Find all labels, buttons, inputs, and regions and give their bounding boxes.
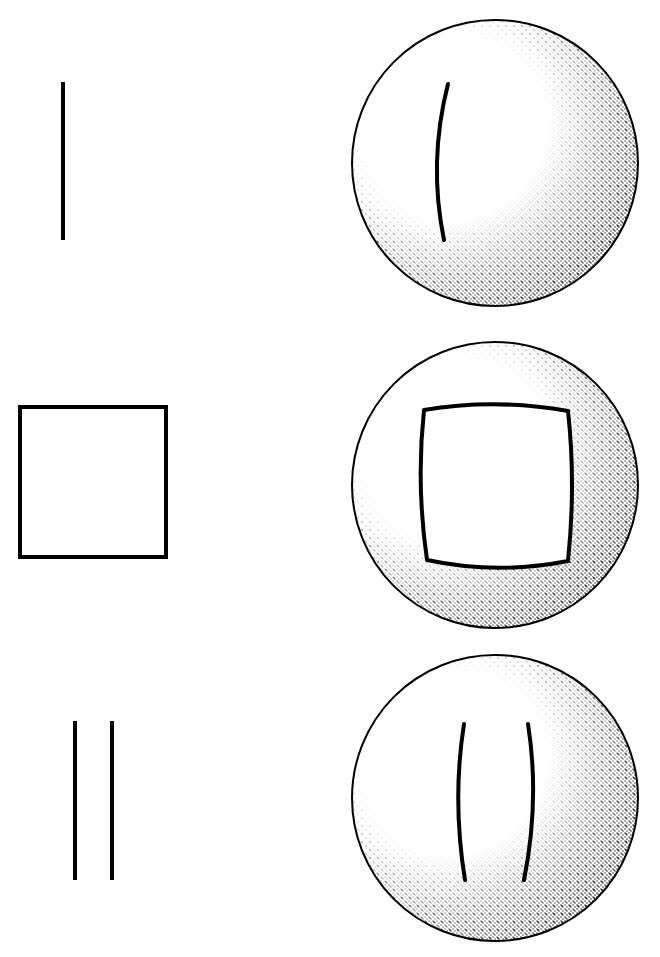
sphere-distortion-diagram [0, 0, 660, 957]
projected-pincushion-square [421, 404, 572, 568]
row-parallel-lines [75, 655, 638, 941]
sphere-1 [352, 20, 638, 306]
row-square [20, 342, 638, 628]
sphere-3 [352, 655, 638, 941]
row-single-line [63, 20, 638, 306]
sphere-2 [352, 342, 638, 628]
flat-square [20, 407, 166, 557]
